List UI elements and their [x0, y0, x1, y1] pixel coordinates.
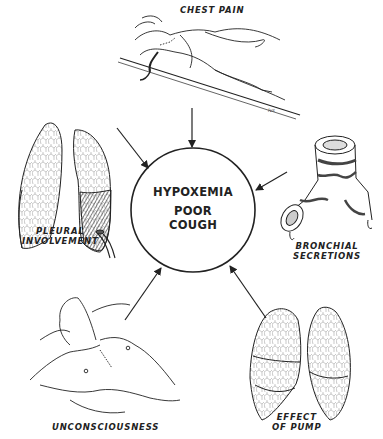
- arrow-pump: [230, 266, 266, 318]
- label-bronchial-line1: BRONCHIAL: [293, 241, 361, 251]
- pump-lungs-illustration: [250, 307, 350, 420]
- arrow-bronchial: [256, 172, 287, 190]
- central-node-text: HYPOXEMIA POOR COUGH: [143, 184, 243, 232]
- label-unconsciousness: UNCONSCIOUSNESS: [52, 422, 159, 432]
- label-pleural-involvement: PLEURAL INVOLVEMENT: [22, 226, 99, 246]
- svg-text:lvs: lvs: [268, 107, 275, 113]
- unconscious-figure-illustration: [30, 298, 180, 413]
- label-chest-pain: CHEST PAIN: [180, 5, 244, 15]
- chest-pain-illustration: lvs: [118, 16, 300, 119]
- center-line-poor: POOR: [143, 204, 243, 218]
- label-effect-of-pump: EFFECT OF PUMP: [272, 412, 321, 432]
- label-pleural-line1: PLEURAL: [22, 226, 99, 236]
- arrow-pleural: [117, 128, 148, 168]
- label-pump-line1: EFFECT: [272, 412, 321, 422]
- center-line-hypoxemia: HYPOXEMIA: [143, 184, 243, 200]
- bronchus-illustration: [276, 136, 372, 240]
- label-bronchial-secretions: BRONCHIAL SECRETIONS: [293, 241, 361, 261]
- label-pleural-line2: INVOLVEMENT: [22, 236, 99, 246]
- label-pump-line2: OF PUMP: [272, 422, 321, 432]
- center-line-cough: COUGH: [143, 218, 243, 232]
- arrow-unconsciousness: [125, 268, 161, 320]
- label-bronchial-line2: SECRETIONS: [293, 251, 361, 261]
